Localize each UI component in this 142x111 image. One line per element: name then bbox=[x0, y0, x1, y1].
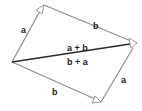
label-b-top: b bbox=[93, 21, 99, 31]
label-a-top: a bbox=[21, 25, 27, 35]
vector-a-right bbox=[101, 48, 133, 102]
label-resultant-above: a + b bbox=[67, 43, 88, 53]
arrowhead-a-top bbox=[36, 5, 44, 14]
vector-diagram: a b a + b b + a b a bbox=[0, 0, 142, 111]
arrowhead-b-bottom bbox=[92, 96, 101, 103]
label-b-bottom: b bbox=[52, 87, 58, 97]
vector-b-top bbox=[44, 5, 131, 41]
vector-a-top bbox=[12, 11, 40, 62]
label-resultant-below: b + a bbox=[67, 57, 89, 67]
arrowhead-resultant bbox=[129, 38, 137, 48]
label-a-right: a bbox=[121, 75, 127, 85]
